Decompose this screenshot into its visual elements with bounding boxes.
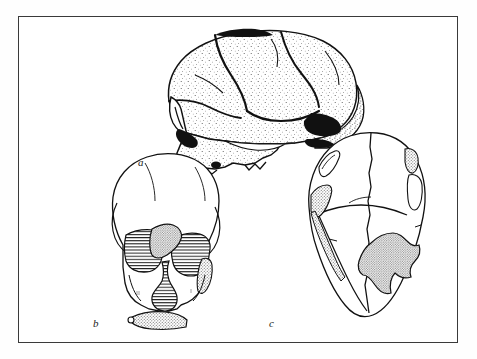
figure-plate-frame: a b c [18,16,458,343]
page-canvas: a b c [0,0,477,359]
maxilla-alveolar-strip-b [131,312,187,330]
maxilla-marker-b [128,317,134,323]
panel-b-frontal-cranium [112,154,220,330]
panel-label-b: b [93,317,99,329]
right-upper-notch-c [405,148,418,173]
cranium-illustration [19,17,459,344]
basal-foramen-a [211,162,221,169]
panel-c-superior-cranium [309,133,425,317]
panel-label-c: c [269,317,274,329]
panel-label-a: a [138,156,144,168]
figure-plate-inner: a b c [19,17,457,342]
bleed-text-above [0,0,477,11]
right-lateral-fragment-c [407,174,422,209]
